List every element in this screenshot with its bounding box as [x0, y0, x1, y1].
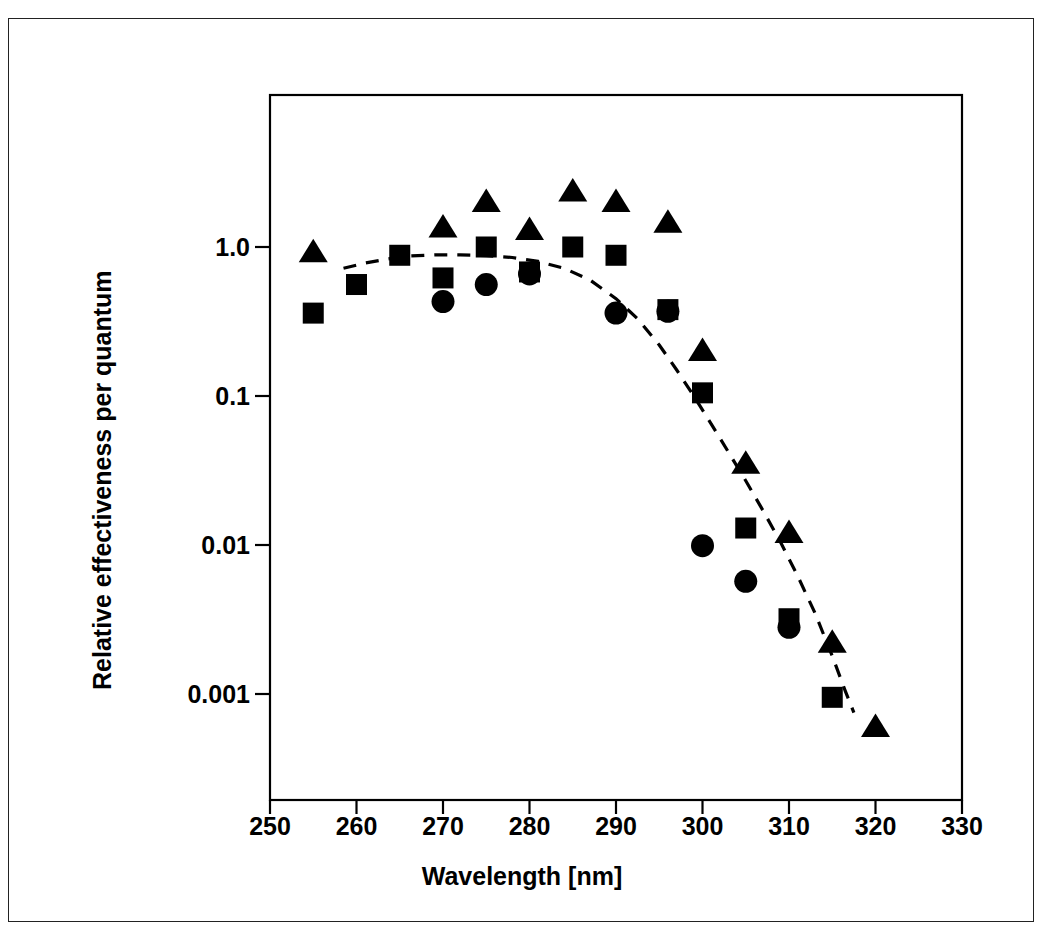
- data-point-square: [476, 237, 497, 258]
- data-point-circle: [605, 302, 628, 325]
- data-point-circle: [691, 534, 714, 557]
- dashed-curve: [344, 255, 854, 713]
- data-point-square: [562, 237, 583, 258]
- data-point-square: [735, 518, 756, 539]
- data-point-triangle: [653, 209, 682, 232]
- data-point-square: [346, 274, 367, 295]
- data-point-triangle: [558, 178, 587, 201]
- x-tick-label: 320: [855, 812, 897, 841]
- y-tick-label: 0.01: [110, 531, 250, 560]
- y-tick-label: 0.001: [110, 680, 250, 709]
- data-point-triangle: [299, 239, 328, 262]
- data-point-square: [389, 245, 410, 266]
- data-point-circle: [656, 300, 679, 323]
- data-point-circle: [778, 616, 801, 639]
- data-point-circle: [734, 570, 757, 593]
- x-tick-label: 280: [509, 812, 551, 841]
- data-point-square: [433, 267, 454, 288]
- data-point-circle: [518, 262, 541, 285]
- data-point-square: [822, 687, 843, 708]
- x-tick-label: 290: [595, 812, 637, 841]
- x-tick-label: 260: [336, 812, 378, 841]
- data-point-triangle: [515, 216, 544, 239]
- y-tick-label: 1.0: [110, 233, 250, 262]
- data-point-triangle: [429, 214, 458, 237]
- data-markers: [299, 178, 890, 737]
- data-point-square: [692, 382, 713, 403]
- x-tick-label: 330: [941, 812, 983, 841]
- data-point-square: [606, 245, 627, 266]
- x-axis-title: Wavelength [nm]: [0, 862, 1044, 891]
- x-tick-label: 250: [249, 812, 291, 841]
- x-tick-label: 300: [682, 812, 724, 841]
- data-point-circle: [432, 290, 455, 313]
- chart-canvas: [0, 0, 1044, 940]
- x-tick-label: 270: [422, 812, 464, 841]
- data-point-triangle: [472, 189, 501, 212]
- axis-ticks: [255, 247, 962, 814]
- data-point-triangle: [688, 338, 717, 361]
- data-point-triangle: [861, 713, 890, 736]
- y-tick-label: 0.1: [110, 382, 250, 411]
- figure-page: Relative effectiveness per quantum Wavel…: [0, 0, 1044, 940]
- data-point-triangle: [602, 189, 631, 212]
- x-tick-label: 310: [768, 812, 810, 841]
- data-point-square: [303, 303, 324, 324]
- data-point-triangle: [775, 520, 804, 543]
- data-point-circle: [475, 273, 498, 296]
- y-axis-title: Relative effectiveness per quantum: [88, 270, 117, 690]
